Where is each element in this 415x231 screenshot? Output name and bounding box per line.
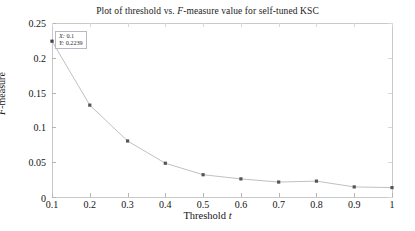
data-point-marker[interactable] — [164, 162, 167, 165]
data-tip-x-key: X: — [59, 32, 65, 39]
data-point-marker[interactable] — [277, 180, 280, 183]
data-tip-y-key: Y: — [59, 39, 64, 46]
chart-figure: Plot of threshold vs. F-measure value fo… — [0, 0, 415, 231]
data-point-marker[interactable] — [390, 186, 393, 189]
data-tip-y-row: Y: 0.2239 — [59, 40, 83, 47]
data-tip-x-value: 0.1 — [66, 32, 74, 39]
series-line — [52, 41, 392, 187]
data-tip-annotation[interactable]: X: 0.1 Y: 0.2239 — [55, 31, 87, 49]
series-markers — [50, 40, 393, 190]
data-tip-anchor-marker — [51, 40, 53, 42]
data-point-marker[interactable] — [88, 104, 91, 107]
data-point-marker[interactable] — [315, 180, 318, 183]
data-point-marker[interactable] — [202, 173, 205, 176]
data-point-marker[interactable] — [126, 139, 129, 142]
data-point-marker[interactable] — [239, 177, 242, 180]
data-tip-y-value: 0.2239 — [66, 39, 83, 46]
data-point-marker[interactable] — [353, 185, 356, 188]
